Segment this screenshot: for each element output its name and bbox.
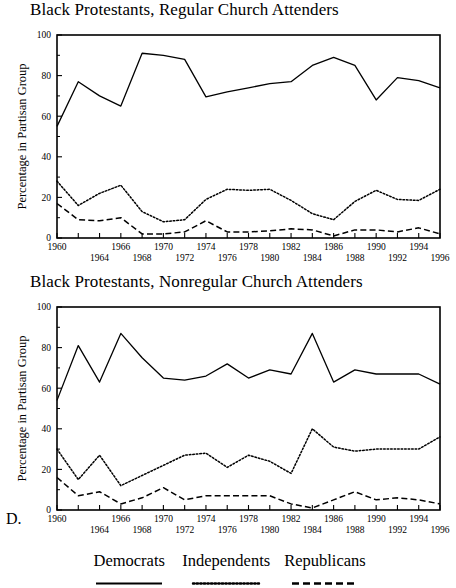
plot-area-top: 0204060801001960196619701974197819821986… <box>0 0 456 268</box>
y-axis-title: Percentage in Partisan Group <box>15 63 29 209</box>
plot-frame <box>57 307 440 510</box>
x-tick-label: 1980 <box>260 253 279 263</box>
series-line-democrats <box>57 53 440 126</box>
x-tick-label: 1988 <box>345 253 364 263</box>
plot-area-bottom: 0204060801001960196619701974197819821986… <box>0 272 456 540</box>
x-tick-label: 1990 <box>367 242 386 252</box>
y-tick-label: 60 <box>42 112 52 122</box>
legend-swatch-dashed <box>284 572 366 577</box>
legend-item-independents: Independents <box>182 551 270 577</box>
y-tick-label: 20 <box>42 193 52 203</box>
x-tick-label: 1990 <box>367 514 386 524</box>
x-tick-label: 1980 <box>260 525 279 535</box>
series-line-republicans <box>57 478 440 508</box>
y-tick-label: 40 <box>42 424 52 434</box>
x-tick-label: 1984 <box>303 525 322 535</box>
y-tick-label: 100 <box>37 302 52 312</box>
x-tick-label: 1968 <box>133 253 152 263</box>
x-tick-label: 1964 <box>90 525 109 535</box>
x-tick-label: 1996 <box>431 253 450 263</box>
x-tick-label: 1996 <box>431 525 450 535</box>
figure-label: D. <box>6 510 22 528</box>
legend-item-republicans: Republicans <box>284 551 366 577</box>
x-tick-label: 1974 <box>196 242 215 252</box>
y-tick-label: 80 <box>42 343 52 353</box>
legend-row: DemocratsIndependentsRepublicans <box>83 551 373 577</box>
series-line-independents <box>57 429 440 486</box>
x-tick-label: 1992 <box>388 253 407 263</box>
y-tick-label: 40 <box>42 152 52 162</box>
x-tick-label: 1986 <box>324 514 343 524</box>
x-tick-label: 1960 <box>48 514 67 524</box>
x-tick-label: 1994 <box>409 514 428 524</box>
x-tick-label: 1982 <box>282 514 301 524</box>
x-tick-label: 1984 <box>303 253 322 263</box>
x-tick-label: 1972 <box>175 525 194 535</box>
x-tick-label: 1970 <box>154 242 173 252</box>
x-tick-label: 1978 <box>239 242 258 252</box>
y-axis-title: Percentage in Partisan Group <box>15 335 29 481</box>
y-tick-label: 20 <box>42 465 52 475</box>
x-tick-label: 1974 <box>196 514 215 524</box>
legend-label: Republicans <box>284 551 366 571</box>
y-tick-label: 60 <box>42 384 52 394</box>
chart-panel-nonregular-attenders: Black Protestants, Nonregular Church Att… <box>0 272 456 540</box>
x-tick-label: 1978 <box>239 514 258 524</box>
chart-panel-regular-attenders: Black Protestants, Regular Church Attend… <box>0 0 456 268</box>
y-tick-label: 100 <box>37 30 52 40</box>
y-tick-label: 80 <box>42 71 52 81</box>
x-tick-label: 1976 <box>218 253 237 263</box>
x-tick-label: 1988 <box>345 525 364 535</box>
x-tick-label: 1986 <box>324 242 343 252</box>
figure-panel-d: Black Protestants, Regular Church Attend… <box>0 0 456 588</box>
x-tick-label: 1970 <box>154 514 173 524</box>
series-line-republicans <box>57 203 440 235</box>
legend-item-democrats: Democrats <box>90 551 168 577</box>
x-tick-label: 1992 <box>388 525 407 535</box>
x-tick-label: 1966 <box>111 242 130 252</box>
legend-swatch-dotted <box>182 572 270 577</box>
x-tick-label: 1966 <box>111 514 130 524</box>
x-tick-label: 1972 <box>175 253 194 263</box>
series-line-independents <box>57 181 440 222</box>
plot-frame <box>57 35 440 238</box>
legend-label: Democrats <box>90 551 168 571</box>
x-tick-label: 1976 <box>218 525 237 535</box>
legend: DemocratsIndependentsRepublicans <box>0 551 456 577</box>
legend-swatch-solid <box>90 572 168 577</box>
x-tick-label: 1968 <box>133 525 152 535</box>
x-tick-label: 1982 <box>282 242 301 252</box>
x-tick-label: 1994 <box>409 242 428 252</box>
legend-label: Independents <box>182 551 270 571</box>
series-line-democrats <box>57 333 440 400</box>
x-tick-label: 1960 <box>48 242 67 252</box>
x-tick-label: 1964 <box>90 253 109 263</box>
